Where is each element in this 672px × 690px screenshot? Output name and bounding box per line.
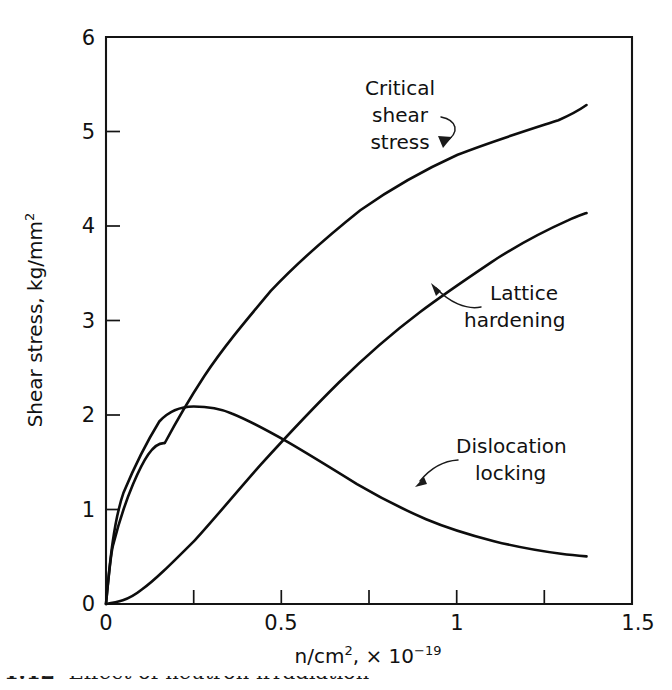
annotation-critical-shear-stress: Critical shear stress <box>365 76 455 154</box>
shear-stress-chart: 0 1 2 3 4 5 6 0 0.5 1 1.5 <box>0 0 672 690</box>
annotation-lattice-hardening-line-2: hardening <box>464 308 565 332</box>
annotation-lattice-hardening-arrowhead <box>431 283 441 296</box>
y-axis-title-base: Shear stress, kg/mm <box>23 221 47 427</box>
annotation-lattice-hardening-leader <box>436 288 481 308</box>
y-tick-label-3: 3 <box>82 309 95 333</box>
y-tick-label-0: 0 <box>82 592 95 616</box>
annotation-dislocation-locking-line-2: locking <box>475 461 546 485</box>
x-tick-label-0p5: 0.5 <box>264 611 297 635</box>
svg-text:Shear stress, kg/mm2: Shear stress, kg/mm2 <box>22 213 47 428</box>
y-axis-title: Shear stress, kg/mm2 <box>22 213 47 428</box>
x-axis-title-sup-2: 2 <box>344 643 352 658</box>
annotation-critical-shear-stress-line-1: Critical <box>365 76 435 100</box>
y-tick-label-2: 2 <box>82 403 95 427</box>
annotation-lattice-hardening-line-1: Lattice <box>490 281 558 305</box>
svg-text:n/cm2, × 10−19: n/cm2, × 10−19 <box>295 643 442 668</box>
x-tick-label-0: 0 <box>99 611 112 635</box>
x-tick-label-1: 1 <box>450 611 463 635</box>
x-tick-label-1p5: 1.5 <box>621 611 654 635</box>
y-tick-label-5: 5 <box>82 120 95 144</box>
y-axis-title-sup: 2 <box>22 213 37 221</box>
x-axis-title: n/cm2, × 10−19 <box>295 643 442 668</box>
annotation-critical-shear-stress-line-3: stress <box>370 130 429 154</box>
y-tick-labels: 0 1 2 3 4 5 6 <box>82 26 95 616</box>
annotation-critical-shear-stress-arrowhead <box>438 136 452 148</box>
annotation-dislocation-locking-line-1: Dislocation <box>456 434 567 458</box>
x-tick-labels: 0 0.5 1 1.5 <box>99 611 654 635</box>
annotation-dislocation-locking-leader <box>420 460 458 481</box>
annotation-critical-shear-stress-line-2: shear <box>372 103 429 127</box>
y-tick-label-6: 6 <box>82 26 95 50</box>
y-tick-label-1: 1 <box>82 498 95 522</box>
figure-container: 0 1 2 3 4 5 6 0 0.5 1 1.5 <box>0 0 672 690</box>
x-axis-ticks <box>106 590 632 604</box>
annotation-dislocation-locking: Dislocation locking <box>415 434 567 487</box>
x-axis-title-mid: , × 10 <box>353 644 414 668</box>
annotation-dislocation-locking-arrowhead <box>415 477 427 487</box>
curve-critical-shear-stress <box>106 105 587 604</box>
x-axis-title-base: n/cm <box>295 644 345 668</box>
y-tick-label-4: 4 <box>82 214 95 238</box>
x-axis-title-sup-exp: −19 <box>414 643 441 658</box>
